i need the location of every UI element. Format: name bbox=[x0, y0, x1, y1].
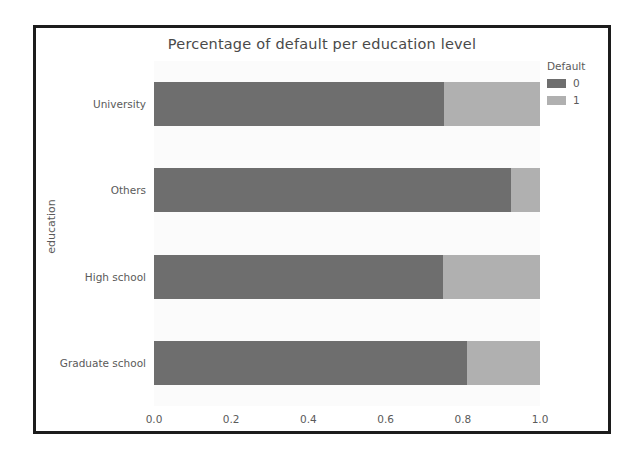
bar-segment bbox=[511, 168, 540, 212]
y-axis-tick-label: Others bbox=[0, 184, 146, 196]
bar-row bbox=[154, 168, 540, 212]
chart-figure: Percentage of default per education leve… bbox=[36, 28, 608, 431]
legend-swatch-icon bbox=[547, 96, 566, 105]
bar-segment bbox=[154, 168, 511, 212]
plot-panel: Graduate schoolHigh schoolOthersUniversi… bbox=[154, 61, 540, 406]
legend-item-label: 0 bbox=[573, 77, 580, 89]
x-axis-tick-label: 0.0 bbox=[146, 413, 163, 425]
bar-segment bbox=[154, 341, 467, 385]
bar-segment bbox=[154, 255, 443, 299]
chart-title: Percentage of default per education leve… bbox=[36, 36, 608, 52]
bar-segment bbox=[444, 82, 541, 126]
legend-item-label: 1 bbox=[573, 94, 580, 106]
bar-segment bbox=[154, 82, 444, 126]
legend-entries: 01 bbox=[547, 77, 611, 106]
x-axis-tick-label: 0.2 bbox=[223, 413, 240, 425]
y-axis-tick-label: Graduate school bbox=[0, 357, 146, 369]
legend-item[interactable]: 0 bbox=[547, 77, 611, 89]
figure-frame: Percentage of default per education leve… bbox=[33, 25, 611, 434]
x-axis-tick-label: 0.6 bbox=[377, 413, 394, 425]
y-axis-title: education bbox=[45, 199, 58, 254]
bar-row bbox=[154, 255, 540, 299]
x-axis-tick-label: 1.0 bbox=[532, 413, 549, 425]
chart-legend: Default 01 bbox=[547, 60, 611, 111]
x-axis-tick-label: 0.4 bbox=[300, 413, 317, 425]
bar-segment bbox=[467, 341, 540, 385]
bar-segment bbox=[443, 255, 540, 299]
legend-item[interactable]: 1 bbox=[547, 94, 611, 106]
legend-swatch-icon bbox=[547, 79, 566, 88]
x-axis-tick-label: 0.8 bbox=[454, 413, 471, 425]
y-axis-tick-label: High school bbox=[0, 271, 146, 283]
bar-row bbox=[154, 341, 540, 385]
bar-row bbox=[154, 82, 540, 126]
legend-title: Default bbox=[547, 60, 611, 72]
y-axis-tick-label: University bbox=[0, 98, 146, 110]
